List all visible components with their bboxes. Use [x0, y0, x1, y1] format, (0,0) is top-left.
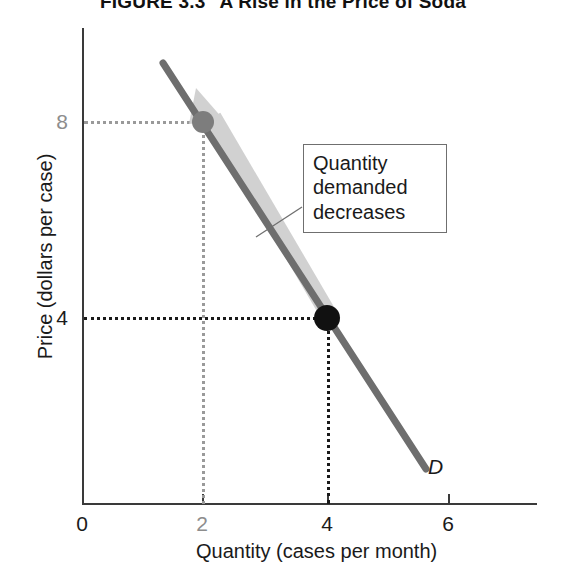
chart-plot-area: Quantity demanded decreases D 8 4 0 2 4 …: [0, 0, 566, 583]
gridline-quantity-4: [327, 318, 330, 504]
gridline-quantity-2: [202, 122, 205, 504]
chart-vector-layer: [0, 0, 566, 583]
figure-container: FIGURE 3.3A Rise in the Price of Soda: [0, 0, 566, 583]
x-tick-label-2: 2: [182, 512, 222, 536]
callout-line-2: demanded: [313, 175, 437, 199]
callout-box: Quantity demanded decreases: [303, 144, 447, 233]
y-axis-line: [82, 28, 84, 505]
callout-line-3: decreases: [313, 200, 437, 224]
x-tick-6: [448, 494, 450, 503]
gridline-price-8: [84, 121, 204, 124]
demand-curve-label: D: [428, 455, 443, 479]
x-tick-label-0: 0: [62, 512, 102, 536]
x-tick-label-4: 4: [307, 512, 347, 536]
gridline-price-4: [84, 317, 328, 320]
callout-leader-line: [256, 207, 302, 237]
x-axis-line: [82, 503, 537, 505]
x-axis-title: Quantity (cases per month): [196, 540, 437, 563]
x-tick-label-6: 6: [428, 512, 468, 536]
y-axis-title: Price (dollars per case): [34, 57, 57, 457]
callout-line-1: Quantity: [313, 151, 437, 175]
